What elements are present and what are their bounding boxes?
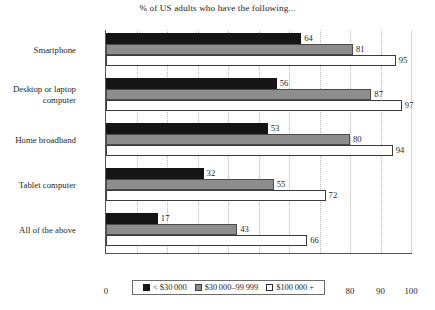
bar-value-label: 81 [353,44,365,55]
bar-value-label: 64 [301,33,313,44]
category-label-line1: Tablet computer [0,180,76,191]
bar-value-label: 80 [350,134,362,145]
xtick-100: 100 [396,286,426,296]
legend-label: $30 000–99 999 [205,283,259,292]
bar-rect [106,235,307,246]
category-label-line1: Smartphone [0,45,76,56]
bar-rect [106,134,350,145]
legend-entry-mid-income[interactable]: $30 000–99 999 [195,283,259,292]
bar-group-tablet: Tablet computer 32 55 72 [106,168,411,208]
bar-value-label: 56 [277,78,289,89]
bar-value-label: 87 [371,89,383,100]
bar-rect [106,89,371,100]
xtick-0: 0 [91,286,121,296]
bar-rect [106,168,204,179]
category-label-line2: computer [0,95,76,106]
bar-rect [106,100,402,111]
legend-label: $100 000 + [276,283,314,292]
bar-value-label: 32 [204,168,216,179]
bar-value-label: 72 [326,190,338,201]
bar-group-all: All of the above 17 43 66 [106,213,411,253]
legend-swatch-icon-black [143,284,150,291]
x-axis-line [105,253,412,254]
bar-rect [106,78,277,89]
bar-value-label: 97 [402,100,414,111]
gridline-100 [411,30,412,253]
chart-title: % of US adults who have the following... [0,3,435,13]
chart-legend: < $30 000 $30 000–99 999 $100 000 + [132,280,325,295]
bar-rect [106,145,393,156]
bar-rect [106,213,158,224]
category-label-desktop: Desktop or laptop computer [0,84,76,105]
legend-entry-low-income[interactable]: < $30 000 [143,283,187,292]
category-label-all: All of the above [0,225,76,236]
bar-rect [106,190,326,201]
bar-group-smartphone: Smartphone 64 81 95 [106,33,411,73]
bar-value-label: 66 [307,235,319,246]
category-label-line1: All of the above [0,225,76,236]
category-label-line1: Desktop or laptop [0,84,76,95]
plot-area: Smartphone 64 81 95 Desktop or laptop co… [106,30,411,253]
bar-rect [106,224,237,235]
bar-value-label: 17 [158,213,170,224]
category-label-smartphone: Smartphone [0,45,76,56]
bar-group-desktop: Desktop or laptop computer 56 87 97 [106,78,411,118]
chart-figure: % of US adults who have the following...… [0,0,435,310]
bar-value-label: 53 [268,123,280,134]
legend-entry-high-income[interactable]: $100 000 + [266,283,314,292]
legend-swatch-icon-white [266,284,273,291]
bar-value-label: 94 [393,145,405,156]
xtick-90: 90 [366,286,396,296]
legend-swatch-icon-gray [195,284,202,291]
xtick-80: 80 [335,286,365,296]
bar-value-label: 55 [274,179,286,190]
bar-value-label: 95 [396,55,408,66]
bar-rect [106,55,396,66]
category-label-tablet: Tablet computer [0,180,76,191]
category-label-broadband: Home broadband [0,135,76,146]
bar-rect [106,179,274,190]
category-label-line1: Home broadband [0,135,76,146]
bar-group-broadband: Home broadband 53 80 94 [106,123,411,163]
legend-label: < $30 000 [153,283,187,292]
bar-rect [106,44,353,55]
bar-rect [106,33,301,44]
bar-value-label: 43 [237,224,249,235]
bar-rect [106,123,268,134]
